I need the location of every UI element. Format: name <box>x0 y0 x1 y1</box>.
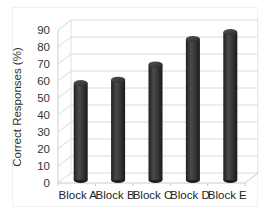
x-category-label: Block A <box>59 189 98 201</box>
bars <box>74 29 238 183</box>
y-tick-label: 90 <box>37 24 50 36</box>
bar-block-b <box>111 77 125 183</box>
bar-block-e <box>223 29 237 183</box>
y-tick-label: 50 <box>37 92 50 104</box>
bar-chart: 0102030405060708090 Block ABlock BBlock … <box>0 0 265 213</box>
y-tick-label: 10 <box>37 160 50 172</box>
y-tick-label: 20 <box>37 143 50 155</box>
y-tick-label: 60 <box>37 75 50 87</box>
y-tick-label: 30 <box>37 126 50 138</box>
bar-block-a <box>74 80 88 183</box>
x-category-label: Block C <box>133 189 173 201</box>
x-category-label: Block B <box>96 189 135 201</box>
bar-block-d <box>186 36 200 183</box>
y-tick-label: 70 <box>37 58 50 70</box>
y-axis-label: Correct Responses (%) <box>11 47 23 167</box>
x-category-label: Block E <box>208 189 247 201</box>
bar-block-c <box>149 61 163 183</box>
y-tick-label: 80 <box>37 41 50 53</box>
x-axis-labels: Block ABlock BBlock CBlock DBlock E <box>59 189 248 201</box>
y-tick-label: 0 <box>44 177 50 189</box>
y-axis-ticks: 0102030405060708090 <box>37 24 50 189</box>
x-category-label: Block D <box>170 189 210 201</box>
y-tick-label: 40 <box>37 109 50 121</box>
